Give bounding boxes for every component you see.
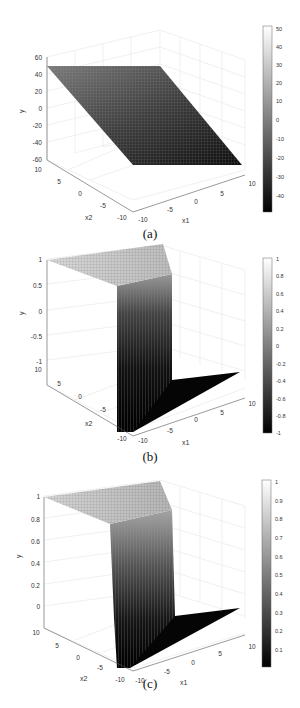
svg-text:30: 30	[276, 62, 282, 68]
svg-text:10: 10	[248, 643, 256, 650]
svg-text:-10: -10	[138, 437, 148, 444]
svg-text:0.6: 0.6	[31, 538, 40, 545]
caption-c: (c)	[0, 676, 300, 692]
svg-text:40: 40	[276, 44, 282, 50]
svg-text:0.6: 0.6	[275, 554, 283, 560]
svg-text:0: 0	[76, 654, 80, 661]
colorbar-b	[263, 258, 272, 433]
x2-axis-label: x2	[85, 420, 93, 427]
panel-c: 1 0.8 0.6 0.4 0.2 0 y 10 5 0 -5 -10 x2 -…	[0, 468, 300, 708]
z-axis-ticks: 60 40 20 0 -20 -40 -60	[33, 54, 43, 163]
svg-text:60: 60	[35, 54, 43, 61]
svg-text:5: 5	[57, 178, 61, 185]
svg-text:-20: -20	[276, 155, 284, 161]
svg-text:1: 1	[276, 256, 279, 262]
svg-text:0: 0	[78, 190, 82, 197]
svg-text:1: 1	[38, 256, 42, 263]
svg-text:-10: -10	[117, 214, 127, 221]
svg-text:-0.5: -0.5	[31, 333, 43, 340]
caption-b: (b)	[0, 449, 300, 465]
svg-text:-0.6: -0.6	[276, 396, 285, 402]
colorbar-ticks-b: 1 0.8 0.6 0.4 0.2 0 -0.2 -0.4 -0.6 -0.8 …	[276, 256, 285, 436]
svg-text:0.4: 0.4	[31, 560, 40, 567]
x2-axis-ticks: 10 5 0 -5 -10	[34, 366, 127, 442]
svg-text:0: 0	[194, 416, 198, 423]
svg-text:-1: -1	[276, 430, 281, 436]
svg-text:0: 0	[194, 198, 198, 205]
colorbar-ticks-a: 50 40 30 20 10 0 -10 -20 -30 -40	[276, 26, 284, 199]
svg-text:0.7: 0.7	[275, 535, 283, 541]
svg-text:50: 50	[276, 26, 282, 32]
svg-text:-0.8: -0.8	[276, 413, 285, 419]
x1-axis-ticks: -10 -5 0 5 10	[138, 180, 256, 223]
svg-text:-1: -1	[36, 358, 42, 365]
x2-axis-ticks: 10 5 0 -5 -10	[34, 166, 127, 221]
svg-text:5: 5	[220, 190, 224, 197]
surface-plot-b: 1 0.5 0 -0.5 -1 y 10 5 0 -5 -10 x2 -10 -…	[0, 240, 300, 468]
x1-axis-label: x1	[182, 439, 190, 446]
svg-text:-5: -5	[167, 427, 173, 434]
svg-text:20: 20	[276, 80, 282, 86]
svg-text:-5: -5	[100, 406, 106, 413]
svg-text:0: 0	[276, 117, 279, 123]
svg-text:0: 0	[276, 343, 279, 349]
z-axis-ticks: 1 0.8 0.6 0.4 0.2 0	[31, 493, 40, 610]
panel-a: 60 40 20 0 -20 -40 -60 y 10 5 0 -5 -10 x…	[0, 0, 300, 240]
surface-plot-a: 60 40 20 0 -20 -40 -60 y 10 5 0 -5 -10 x…	[0, 0, 300, 240]
svg-text:0.5: 0.5	[33, 282, 42, 289]
svg-text:0.4: 0.4	[275, 591, 283, 597]
svg-text:0.6: 0.6	[276, 291, 284, 297]
svg-text:5: 5	[218, 650, 222, 657]
svg-text:0: 0	[78, 393, 82, 400]
svg-text:-0.2: -0.2	[276, 361, 285, 367]
svg-text:10: 10	[32, 629, 40, 636]
svg-text:1: 1	[36, 493, 40, 500]
svg-text:0: 0	[36, 603, 40, 610]
z-axis-label: y	[18, 109, 26, 113]
svg-text:0.2: 0.2	[275, 628, 283, 634]
svg-text:0.1: 0.1	[275, 647, 283, 653]
svg-text:-10: -10	[138, 216, 148, 223]
svg-text:1: 1	[275, 479, 278, 485]
svg-text:-30: -30	[276, 174, 284, 180]
svg-text:-40: -40	[33, 139, 43, 146]
svg-text:0: 0	[38, 105, 42, 112]
svg-text:0.3: 0.3	[275, 610, 283, 616]
svg-text:-5: -5	[167, 206, 173, 213]
svg-text:-0.4: -0.4	[276, 378, 285, 384]
colorbar-a	[263, 26, 272, 212]
svg-text:5: 5	[57, 380, 61, 387]
svg-text:10: 10	[248, 400, 256, 407]
colorbar-c	[262, 480, 271, 667]
svg-text:5: 5	[55, 642, 59, 649]
svg-text:0: 0	[38, 308, 42, 315]
svg-text:-20: -20	[33, 122, 43, 129]
z-axis-label: y	[15, 554, 23, 558]
svg-text:10: 10	[276, 98, 282, 104]
svg-text:0.8: 0.8	[275, 516, 283, 522]
z-axis-ticks: 1 0.5 0 -0.5 -1	[31, 256, 43, 365]
panel-b: 1 0.5 0 -0.5 -1 y 10 5 0 -5 -10 x2 -10 -…	[0, 240, 300, 468]
svg-text:5: 5	[220, 409, 224, 416]
svg-text:-5: -5	[100, 202, 106, 209]
surface-plot-c: 1 0.8 0.6 0.4 0.2 0 y 10 5 0 -5 -10 x2 -…	[0, 468, 300, 708]
svg-text:40: 40	[35, 71, 43, 78]
svg-text:0.2: 0.2	[31, 582, 40, 589]
svg-text:0.5: 0.5	[275, 572, 283, 578]
svg-text:-60: -60	[33, 156, 43, 163]
x2-axis-ticks: 10 5 0 -5 -10	[32, 629, 125, 683]
svg-text:-10: -10	[117, 435, 127, 442]
svg-text:-10: -10	[276, 136, 284, 142]
svg-text:10: 10	[248, 180, 256, 187]
svg-text:0.2: 0.2	[276, 326, 284, 332]
svg-text:0.8: 0.8	[276, 273, 284, 279]
svg-text:-40: -40	[276, 193, 284, 199]
svg-text:0.4: 0.4	[276, 308, 284, 314]
svg-text:-5: -5	[97, 664, 103, 671]
svg-text:10: 10	[34, 366, 42, 373]
z-axis-label: y	[18, 311, 26, 315]
svg-text:0: 0	[191, 659, 195, 666]
svg-text:0.9: 0.9	[275, 498, 283, 504]
svg-text:20: 20	[35, 88, 43, 95]
svg-text:10: 10	[34, 166, 42, 173]
